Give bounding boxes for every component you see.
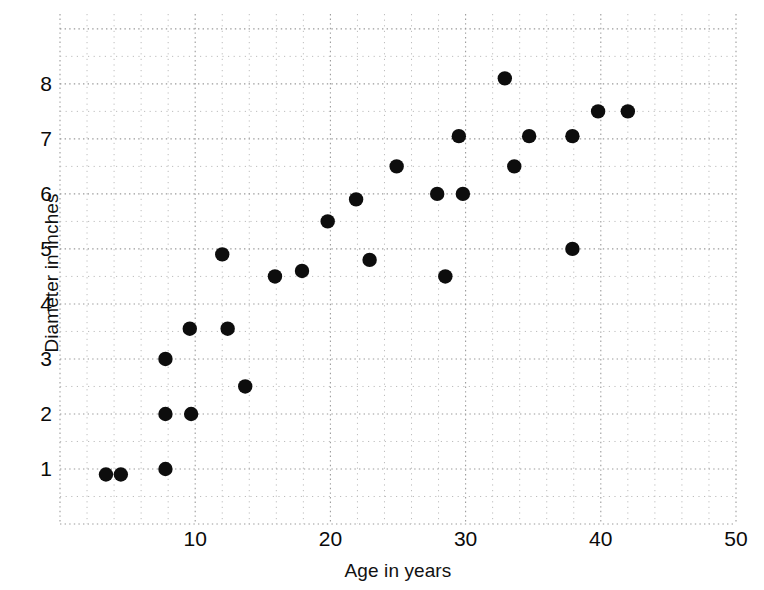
data-point xyxy=(158,462,172,476)
data-point xyxy=(215,247,229,261)
data-point xyxy=(498,71,512,85)
data-point xyxy=(184,407,198,421)
y-tick-label: 5 xyxy=(10,238,52,259)
data-point xyxy=(114,467,128,481)
data-point xyxy=(220,321,234,335)
y-tick-label: 1 xyxy=(10,458,52,479)
data-point xyxy=(268,269,282,283)
data-point xyxy=(349,192,363,206)
x-axis-title: Age in years xyxy=(60,560,736,582)
data-point xyxy=(362,253,376,267)
data-point xyxy=(430,187,444,201)
x-axis-tick-labels: 1020304050 xyxy=(60,528,760,558)
y-tick-label: 2 xyxy=(10,403,52,424)
data-point xyxy=(591,104,605,118)
data-point xyxy=(158,407,172,421)
data-point xyxy=(438,269,452,283)
y-tick-label: 4 xyxy=(10,293,52,314)
y-axis-tick-labels: 12345678 xyxy=(0,0,52,590)
data-point xyxy=(507,159,521,173)
x-tick-label: 50 xyxy=(706,528,764,549)
y-tick-label: 7 xyxy=(10,128,52,149)
data-point xyxy=(183,321,197,335)
data-point xyxy=(522,129,536,143)
y-tick-label: 3 xyxy=(10,348,52,369)
data-point xyxy=(565,242,579,256)
data-point xyxy=(456,187,470,201)
data-point xyxy=(320,214,334,228)
scatter-plot-figure: Diameter in inches 12345678 1020304050 A… xyxy=(0,0,764,590)
data-point xyxy=(295,264,309,278)
plot-area xyxy=(60,14,736,524)
data-point xyxy=(621,104,635,118)
data-point xyxy=(99,467,113,481)
data-point xyxy=(452,129,466,143)
x-tick-label: 10 xyxy=(165,528,225,549)
data-point xyxy=(389,159,403,173)
data-point xyxy=(565,129,579,143)
x-tick-label: 20 xyxy=(300,528,360,549)
data-point xyxy=(158,352,172,366)
x-tick-label: 40 xyxy=(571,528,631,549)
data-point xyxy=(238,379,252,393)
y-tick-label: 6 xyxy=(10,183,52,204)
y-tick-label: 8 xyxy=(10,73,52,94)
data-points-layer xyxy=(60,14,736,524)
x-tick-label: 30 xyxy=(436,528,496,549)
